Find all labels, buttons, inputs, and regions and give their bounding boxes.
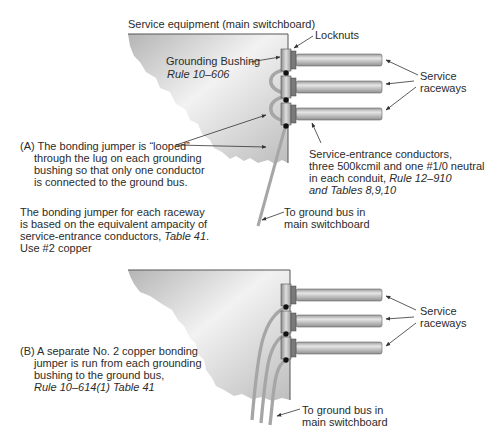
note-table-ref: Table 41 [164, 230, 206, 242]
caption-a-line-4: is connected to the ground bus. [22, 176, 188, 189]
leader-lines-b [277, 296, 416, 416]
ground-bus-label-a-2: main switchboard [284, 218, 370, 231]
note-line-3-text: service-entrance conductors, [20, 230, 164, 242]
raceways-a [296, 54, 382, 120]
note-line-4: Use #2 copper [20, 242, 92, 255]
grounding-bushing-label: Grounding Bushing [166, 55, 260, 68]
grounding-bushings-a [281, 49, 296, 129]
grounding-bushings-b [281, 284, 296, 363]
conductors-line-4: and Tables 8,9,10 [309, 184, 396, 197]
note-period: . [206, 230, 209, 242]
conductors-line-3-text: in each conduit, [309, 172, 389, 184]
switchboard-title: Service equipment (main switchboard) [128, 18, 315, 31]
ground-bus-label-b-2: main switchboard [302, 416, 388, 429]
caption-b-line-4: Rule 10–614(1) Table 41 [22, 381, 155, 394]
service-raceways-label-a-2: raceways [420, 82, 466, 95]
raceways-b [296, 289, 382, 354]
conductors-rule: Rule 12–910 [389, 172, 451, 184]
grounding-bushing-rule: Rule 10–606 [167, 68, 229, 81]
locknuts-label: Locknuts [315, 29, 359, 42]
service-raceways-label-b-2: raceways [420, 317, 466, 330]
